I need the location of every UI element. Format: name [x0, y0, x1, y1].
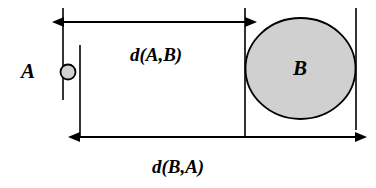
directed-distance-diagram: A B d(A,B) d(B,A): [0, 0, 376, 188]
object-a-label: A: [19, 59, 35, 83]
object-a-shape: [61, 65, 76, 80]
distance-b-to-a-label: d(B,A): [152, 156, 204, 178]
distance-a-to-b-label: d(A,B): [130, 44, 182, 66]
diagram-canvas: A B d(A,B) d(B,A): [0, 0, 376, 188]
object-b-label: B: [292, 56, 307, 80]
